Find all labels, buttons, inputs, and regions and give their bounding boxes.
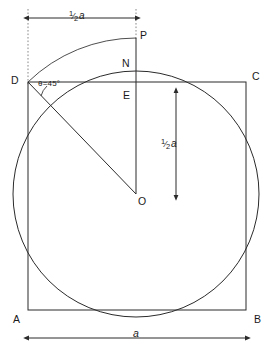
point-label-p: P — [140, 30, 147, 41]
point-label-o: O — [138, 196, 146, 207]
angle-label-theta: θ=45° — [38, 80, 60, 88]
point-label-a: A — [13, 314, 20, 325]
point-label-d: D — [11, 75, 19, 86]
fraction-denominator: 2 — [166, 142, 170, 151]
point-label-e: E — [123, 90, 130, 101]
dimension-label-a-bottom: a — [133, 328, 139, 339]
point-label-n: N — [122, 58, 130, 69]
arc-d-to-p — [28, 38, 136, 82]
geometry-diagram: A B C D E N O P θ=45° 1⁄2a 1⁄2a a — [0, 0, 275, 354]
fraction-unit: a — [79, 10, 85, 21]
point-label-b: B — [254, 314, 261, 325]
point-label-c: C — [252, 71, 260, 82]
fraction-denominator: 2 — [74, 14, 78, 23]
diagonal-line-do — [28, 82, 136, 194]
fraction-unit: a — [171, 138, 177, 149]
dimension-label-half-a-right: 1⁄2a — [161, 138, 177, 151]
diagram-canvas — [0, 0, 275, 354]
dimension-label-half-a-top: 1⁄2a — [69, 10, 85, 23]
